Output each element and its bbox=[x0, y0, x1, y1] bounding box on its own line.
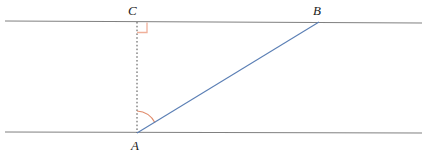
vertex-label-b: B bbox=[313, 4, 321, 17]
right-angle-marker-at-C bbox=[137, 23, 147, 33]
geometry-figure: C B A bbox=[0, 0, 428, 157]
top-parallel-line bbox=[5, 21, 422, 23]
vertex-label-c: C bbox=[128, 4, 137, 17]
figure-svg bbox=[0, 0, 428, 157]
transversal-line-AB bbox=[137, 22, 319, 133]
angle-arc-at-A bbox=[137, 111, 155, 123]
bottom-parallel-line bbox=[5, 132, 422, 133]
vertex-label-a: A bbox=[131, 139, 139, 152]
